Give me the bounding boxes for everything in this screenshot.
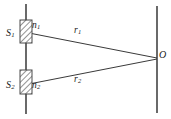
ray-bottom-line <box>29 59 157 84</box>
diagram-canvas <box>0 0 171 119</box>
optics-ray-diagram: S1 S2 n1 n2 r1 r2 O <box>0 0 171 119</box>
slit-top-block <box>20 20 32 43</box>
label-ray-bottom: r2 <box>74 75 81 85</box>
label-index-bottom: n2 <box>32 81 40 91</box>
slit-bottom-block <box>20 70 32 94</box>
label-index-top: n1 <box>32 21 40 31</box>
label-slit-top: S1 <box>6 28 15 39</box>
label-observation-point: O <box>159 50 167 61</box>
ray-top-line <box>29 33 157 58</box>
label-slit-bottom: S2 <box>6 80 15 91</box>
label-ray-top: r1 <box>74 26 81 36</box>
